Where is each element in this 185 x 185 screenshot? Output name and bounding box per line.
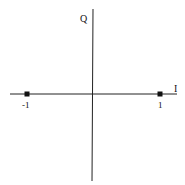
point-label-plus-one: 1: [158, 100, 163, 110]
q-axis-label: Q: [80, 13, 88, 24]
point-plus-one: [158, 92, 163, 97]
q-axis: [92, 9, 93, 181]
constellation-diagram: -1 1 Q I: [0, 0, 185, 185]
i-axis-label: I: [174, 83, 177, 94]
point-minus-one: [25, 92, 30, 97]
point-label-minus-one: -1: [22, 100, 30, 110]
